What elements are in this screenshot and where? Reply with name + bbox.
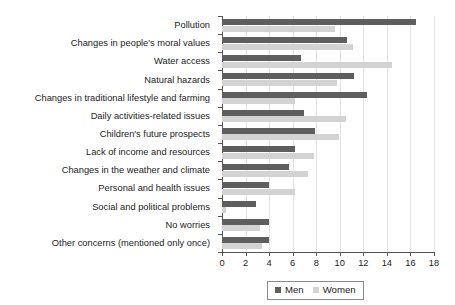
bar-group: [222, 143, 434, 161]
legend-label-men: Men: [285, 284, 304, 296]
bar-women: [222, 207, 226, 213]
bar-women: [222, 171, 308, 177]
category-label: Other concerns (mentioned only once): [52, 238, 210, 248]
bar-men: [222, 73, 354, 79]
y-tick: [218, 143, 222, 144]
bar-men: [222, 37, 347, 43]
bar-men: [222, 110, 304, 116]
bar-group: [222, 34, 434, 52]
y-tick: [218, 125, 222, 126]
x-tick: [363, 252, 364, 256]
x-tick-label: 12: [358, 258, 368, 269]
bar-group: [222, 161, 434, 179]
x-tick-label: 10: [335, 258, 345, 269]
bar-men: [222, 55, 301, 61]
category-label: Changes in people's moral values: [71, 38, 210, 48]
x-tick: [293, 252, 294, 256]
x-tick: [434, 252, 435, 256]
bar-group: [222, 234, 434, 252]
bar-women: [222, 153, 314, 159]
x-tick-label: 16: [405, 258, 415, 269]
bar-men: [222, 201, 256, 207]
category-label: Water access: [154, 56, 210, 66]
x-tick: [387, 252, 388, 256]
y-tick: [218, 34, 222, 35]
bar-women: [222, 44, 353, 50]
bar-group: [222, 70, 434, 88]
bar-men: [222, 19, 416, 25]
category-label: No worries: [166, 220, 210, 230]
y-tick: [218, 216, 222, 217]
x-tick-label: 6: [290, 258, 295, 269]
bar-women: [222, 62, 392, 68]
plot-area: [222, 16, 434, 252]
y-tick: [218, 161, 222, 162]
y-tick: [218, 179, 222, 180]
y-tick: [218, 89, 222, 90]
horizontal-bar-chart: PollutionChanges in people's moral value…: [0, 0, 455, 305]
chart-legend: Men Women: [267, 281, 364, 300]
y-tick: [218, 234, 222, 235]
x-tick-label: 4: [267, 258, 272, 269]
category-label: Lack of income and resources: [86, 147, 210, 157]
x-tick-label: 18: [429, 258, 439, 269]
legend-swatch-men-icon: [275, 287, 281, 293]
x-tick: [246, 252, 247, 256]
y-tick: [218, 198, 222, 199]
bar-men: [222, 219, 269, 225]
bar-women: [222, 80, 337, 86]
bar-group: [222, 125, 434, 143]
bar-men: [222, 164, 289, 170]
bar-men: [222, 92, 367, 98]
x-tick-label: 0: [219, 258, 224, 269]
bar-group: [222, 89, 434, 107]
bar-group: [222, 216, 434, 234]
bar-group: [222, 198, 434, 216]
bar-women: [222, 225, 260, 231]
x-tick-label: 8: [314, 258, 319, 269]
x-tick-label: 14: [382, 258, 392, 269]
bar-men: [222, 237, 269, 243]
bar-men: [222, 146, 295, 152]
x-axis-line: [222, 252, 435, 253]
x-tick: [222, 252, 223, 256]
bar-group: [222, 179, 434, 197]
bar-group: [222, 16, 434, 34]
bar-group: [222, 107, 434, 125]
bar-women: [222, 98, 295, 104]
legend-label-women: Women: [323, 284, 356, 296]
category-label: Changes in traditional lifestyle and far…: [35, 93, 210, 103]
bar-men: [222, 128, 315, 134]
y-tick: [218, 70, 222, 71]
legend-swatch-women-icon: [313, 287, 319, 293]
bar-men: [222, 182, 269, 188]
category-label: Daily activities-related issues: [91, 111, 210, 121]
legend-item-women: Women: [313, 284, 356, 296]
gridline-18: [434, 16, 435, 252]
category-label: Children's future prospects: [100, 129, 210, 139]
category-label: Changes in the weather and climate: [62, 165, 210, 175]
category-label: Natural hazards: [144, 75, 210, 85]
category-axis-labels: PollutionChanges in people's moral value…: [0, 16, 216, 252]
x-tick: [316, 252, 317, 256]
y-tick: [218, 16, 222, 17]
bar-women: [222, 116, 346, 122]
bar-women: [222, 134, 339, 140]
x-tick: [340, 252, 341, 256]
legend-item-men: Men: [275, 284, 304, 296]
y-tick: [218, 107, 222, 108]
category-label: Social and political problems: [92, 202, 210, 212]
x-tick: [269, 252, 270, 256]
category-label: Pollution: [174, 20, 210, 30]
category-label: Personal and health issues: [98, 183, 210, 193]
bar-women: [222, 26, 335, 32]
bar-women: [222, 243, 262, 249]
bar-women: [222, 189, 295, 195]
x-tick-label: 2: [243, 258, 248, 269]
y-tick: [218, 52, 222, 53]
x-tick: [410, 252, 411, 256]
bar-group: [222, 52, 434, 70]
